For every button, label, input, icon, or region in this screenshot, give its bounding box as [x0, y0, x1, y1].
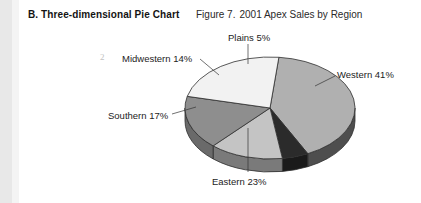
- pie-leader-lines: [172, 44, 335, 172]
- pie-top-slices: [185, 57, 355, 159]
- leader-line-southern: [172, 107, 196, 114]
- figure-number: Figure 7.: [196, 9, 235, 20]
- pie-slice-midwestern: [213, 108, 282, 159]
- figure-caption: Figure 7.2001 Apex Sales by Region: [196, 9, 362, 20]
- section-heading: B. Three-dimensional Pie Chart: [28, 9, 179, 20]
- figure-title: 2001 Apex Sales by Region: [239, 9, 362, 20]
- slice-label-plains: Plains 5%: [228, 32, 270, 43]
- page-number-artifact: 2: [100, 52, 105, 62]
- pie-side-plains: [282, 154, 307, 172]
- scan-margin-strip: [0, 0, 12, 203]
- pie-3d-side-walls: [185, 108, 355, 172]
- pie-side-midwestern: [213, 146, 282, 172]
- slice-label-eastern: Eastern 23%: [212, 176, 266, 187]
- document-page: B. Three-dimensional Pie Chart Figure 7.…: [0, 0, 421, 203]
- slice-label-midwestern: Midwestern 14%: [122, 53, 192, 64]
- pie-side-western: [308, 108, 355, 167]
- section-title: Three-dimensional Pie Chart: [41, 9, 179, 20]
- scan-margin-strip-inner: [12, 0, 19, 203]
- slice-label-southern: Southern 17%: [108, 110, 168, 121]
- pie-slice-eastern: [187, 57, 279, 108]
- pie-chart-figure: [0, 0, 421, 203]
- pie-slice-plains: [270, 108, 308, 158]
- pie-chart-svg: [0, 0, 421, 203]
- leader-line-midwestern: [200, 59, 219, 75]
- pie-side-southern: [185, 108, 213, 159]
- leader-line-western: [315, 76, 335, 86]
- pie-slice-southern: [185, 96, 270, 146]
- section-letter: B.: [28, 9, 38, 20]
- slice-label-western: Western 41%: [337, 69, 394, 80]
